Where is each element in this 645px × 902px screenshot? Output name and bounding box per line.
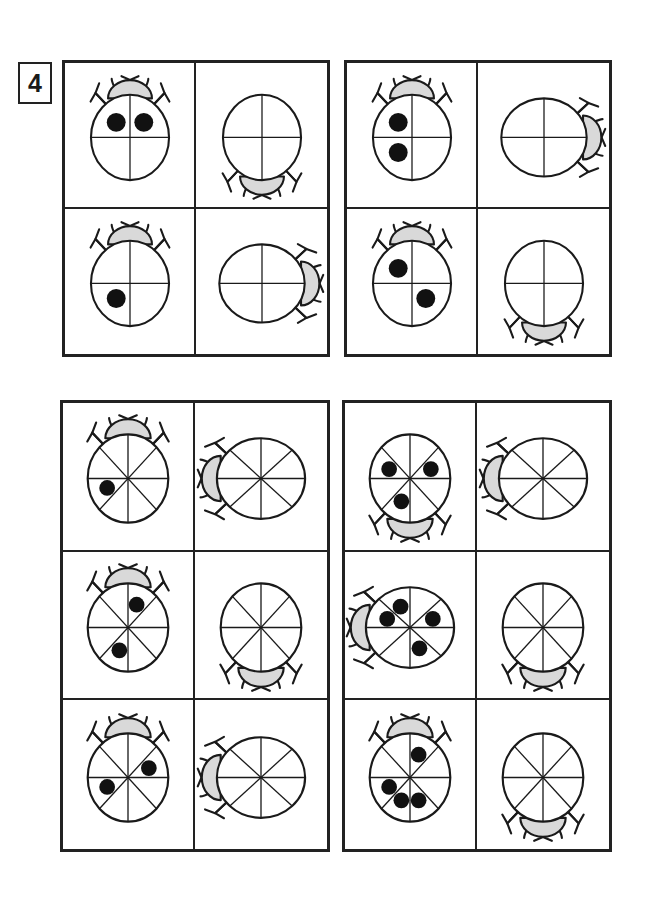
ladybug-3-3-icon bbox=[65, 562, 191, 688]
ladybug-1-3-icon bbox=[69, 220, 191, 342]
worksheet-page: 4 bbox=[0, 0, 645, 902]
ladybug-4-2-icon bbox=[480, 413, 606, 539]
ladybug-cell[interactable] bbox=[63, 552, 195, 701]
ladybug-cell[interactable] bbox=[345, 403, 477, 552]
ladybug-3-4-icon bbox=[198, 562, 324, 688]
ladybug-cell[interactable] bbox=[477, 700, 609, 849]
eighths-block-bottom-left bbox=[60, 400, 330, 852]
ladybug-2-4-icon bbox=[483, 220, 605, 342]
ladybug-4-5-icon bbox=[347, 712, 473, 838]
ladybug-cell[interactable] bbox=[478, 209, 609, 355]
ladybug-1-2-icon bbox=[201, 74, 323, 196]
ladybug-cell[interactable] bbox=[477, 552, 609, 701]
ladybug-4-6-icon bbox=[480, 712, 606, 838]
ladybug-4-1-icon bbox=[347, 413, 473, 539]
ladybug-cell[interactable] bbox=[195, 700, 327, 849]
ladybug-cell[interactable] bbox=[477, 403, 609, 552]
quarters-block-top-left bbox=[62, 60, 330, 357]
ladybug-3-5-icon bbox=[65, 712, 191, 838]
ladybug-1-1-icon bbox=[69, 74, 191, 196]
ladybug-4-4-icon bbox=[480, 562, 606, 688]
ladybug-cell[interactable] bbox=[345, 552, 477, 701]
ladybug-cell[interactable] bbox=[65, 209, 196, 355]
ladybug-2-3-icon bbox=[351, 220, 473, 342]
ladybug-cell[interactable] bbox=[347, 209, 478, 355]
exercise-number-badge: 4 bbox=[18, 62, 52, 104]
ladybug-1-4-icon bbox=[201, 220, 323, 342]
ladybug-3-1-icon bbox=[65, 413, 191, 539]
ladybug-cell[interactable] bbox=[196, 63, 327, 209]
ladybug-4-3-icon bbox=[347, 562, 473, 688]
ladybug-cell[interactable] bbox=[195, 552, 327, 701]
ladybug-cell[interactable] bbox=[63, 403, 195, 552]
ladybug-2-2-icon bbox=[483, 74, 605, 196]
ladybug-cell[interactable] bbox=[478, 63, 609, 209]
ladybug-cell[interactable] bbox=[347, 63, 478, 209]
ladybug-3-6-icon bbox=[198, 712, 324, 838]
ladybug-3-2-icon bbox=[198, 413, 324, 539]
quarters-block-top-right bbox=[344, 60, 612, 357]
ladybug-cell[interactable] bbox=[195, 403, 327, 552]
eighths-block-bottom-right bbox=[342, 400, 612, 852]
ladybug-cell[interactable] bbox=[63, 700, 195, 849]
ladybug-cell[interactable] bbox=[345, 700, 477, 849]
ladybug-cell[interactable] bbox=[196, 209, 327, 355]
ladybug-cell[interactable] bbox=[65, 63, 196, 209]
ladybug-2-1-icon bbox=[351, 74, 473, 196]
